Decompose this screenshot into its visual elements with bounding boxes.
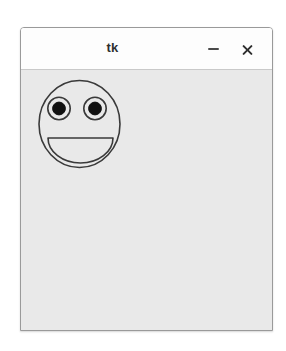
- smiley-face-drawing: [38, 76, 138, 180]
- smiley-right-eye-pupil: [89, 102, 102, 115]
- minimize-icon: [208, 48, 219, 50]
- minimize-button[interactable]: [200, 36, 226, 62]
- tk-canvas[interactable]: [21, 70, 272, 331]
- tk-application-window: tk: [20, 27, 273, 331]
- close-icon: [241, 43, 254, 56]
- title-bar: tk: [21, 28, 272, 70]
- smiley-left-eye-pupil: [53, 102, 66, 115]
- smiley-face-outline: [39, 81, 120, 168]
- close-button[interactable]: [234, 36, 260, 62]
